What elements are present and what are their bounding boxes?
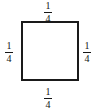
fraction-numerator: 1 [85,41,90,51]
fraction-denominator: 4 [46,100,51,110]
fraction-numerator: 1 [46,1,51,11]
geometry-figure: 1 4 1 4 1 4 1 4 [0,0,96,110]
square-shape [21,21,79,81]
side-label-right: 1 4 [79,41,95,64]
side-label-bottom: 1 4 [40,87,56,110]
fraction-denominator: 4 [85,54,90,64]
fraction-denominator: 4 [7,54,12,64]
fraction-numerator: 1 [7,41,12,51]
fraction-denominator: 4 [46,14,51,24]
side-label-top: 1 4 [40,1,56,24]
side-label-left: 1 4 [1,41,17,64]
fraction-numerator: 1 [46,87,51,97]
